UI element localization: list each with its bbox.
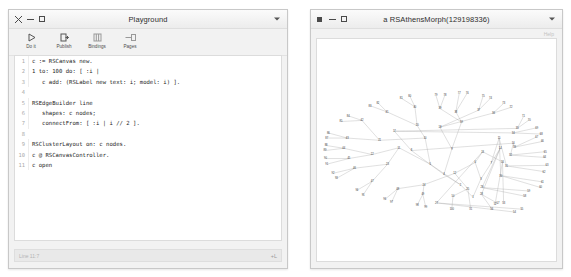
tree-node-label[interactable]: 88 — [325, 143, 328, 147]
tree-node-label[interactable]: 96 — [383, 197, 386, 201]
tree-node-label[interactable]: 26 — [501, 160, 504, 164]
tree-node-label[interactable]: 60 — [539, 185, 542, 189]
tree-node-label[interactable]: 39 — [438, 106, 441, 110]
minimize-icon[interactable] — [27, 16, 34, 23]
tree-node-label[interactable]: 30 — [499, 174, 502, 178]
tree-node-label[interactable]: 15 — [498, 136, 501, 140]
tree-node-label[interactable]: 55 — [520, 207, 523, 211]
tree-node-label[interactable]: 41 — [386, 110, 389, 114]
code-line[interactable]: 1c := RSCanvas new. — [15, 56, 281, 66]
tree-node-label[interactable]: 2 — [460, 183, 462, 187]
tree-node-label[interactable]: 57 — [497, 201, 500, 205]
tree-node-label[interactable]: 95 — [362, 193, 365, 197]
tree-node-label[interactable]: 62 — [543, 170, 546, 174]
tree-node-label[interactable]: 63 — [545, 163, 548, 167]
tree-node-label[interactable]: 38 — [454, 110, 457, 114]
tree-node-label[interactable]: 18 — [438, 125, 441, 129]
tree-node-label[interactable]: 67 — [535, 135, 538, 139]
tree-node-label[interactable]: 4 — [443, 172, 445, 176]
tree-node-label[interactable]: 94 — [355, 188, 358, 192]
tree-node-label[interactable]: 68 — [540, 132, 543, 136]
code-line[interactable]: 6 shapes: c nodes; — [15, 108, 281, 118]
tree-node-label[interactable]: 11 — [398, 146, 401, 150]
maximize-icon[interactable] — [39, 16, 46, 23]
do-it-button[interactable]: Do it — [15, 31, 47, 49]
tree-node-label[interactable]: 64 — [543, 155, 546, 159]
tree-node-label[interactable]: 16 — [512, 141, 515, 145]
code-line[interactable]: 9RSClusterLayout on: c nodes. — [15, 139, 281, 149]
tree-node-label[interactable]: 5 — [430, 162, 432, 166]
close-icon[interactable] — [317, 16, 324, 23]
tree-node-label[interactable]: 19 — [460, 120, 463, 124]
playground-titlebar[interactable]: Playground — [9, 10, 287, 29]
code-line[interactable]: 21 to: 100 do: [ :i | — [15, 66, 281, 76]
code-line[interactable]: 5RSEdgeBuilder line — [15, 98, 281, 108]
tree-node-label[interactable]: 53 — [502, 201, 505, 205]
tree-node-label[interactable]: 29 — [481, 185, 484, 189]
tree-node-label[interactable]: 10 — [424, 136, 427, 140]
tree-node-label[interactable]: 65 — [544, 150, 547, 154]
chevron-down-icon[interactable] — [274, 18, 280, 21]
tree-node-label[interactable]: 35 — [516, 126, 519, 130]
publish-button[interactable]: Publish — [48, 31, 80, 49]
tree-node-label[interactable]: 28 — [480, 192, 483, 196]
tree-node-label[interactable]: 54 — [513, 210, 516, 214]
tree-node-label[interactable]: 72 — [510, 105, 513, 109]
tree-node-label[interactable]: 49 — [421, 192, 424, 196]
tree-node-label[interactable]: 1 — [472, 195, 474, 199]
tree-node-label[interactable]: 79 — [434, 93, 437, 97]
tree-node-label[interactable]: 24 — [423, 183, 426, 187]
tree-node-label[interactable]: 42 — [361, 118, 364, 122]
tree-node-label[interactable]: 70 — [528, 118, 531, 122]
tree-node-label[interactable]: 69 — [535, 126, 538, 130]
code-line[interactable]: 10c @ RSCanvasController. — [15, 150, 281, 160]
tree-node-label[interactable]: 77 — [458, 91, 461, 95]
close-icon[interactable] — [15, 16, 22, 23]
tree-node-label[interactable]: 80 — [408, 94, 411, 98]
morph-titlebar[interactable]: a RSAthensMorph(129198336) — [311, 10, 562, 29]
chevron-down-icon[interactable] — [549, 18, 555, 21]
tree-node-label[interactable]: 100 — [450, 207, 455, 211]
tree-node-label[interactable]: 71 — [522, 114, 525, 118]
tree-node-label[interactable]: 75 — [482, 94, 485, 98]
minimize-icon[interactable] — [329, 16, 336, 23]
tree-node-label[interactable]: 66 — [541, 139, 544, 143]
tree-node-label[interactable]: 58 — [523, 194, 526, 198]
bindings-button[interactable]: Bindings — [81, 31, 113, 49]
help-label[interactable]: Help — [544, 31, 554, 37]
tree-node-label[interactable]: 83 — [368, 104, 371, 108]
code-editor[interactable]: 1c := RSCanvas new.21 to: 100 do: [ :i |… — [14, 55, 282, 241]
tree-node-label[interactable]: 44 — [342, 146, 345, 150]
tree-node-label[interactable]: 99 — [424, 205, 427, 209]
tree-node-label[interactable]: 20 — [416, 123, 419, 127]
tree-visualization-canvas[interactable]: 1234567891011121314151617181920212223242… — [316, 38, 557, 262]
code-line[interactable]: 3 c add: (RSLabel new text: i; model: i)… — [15, 77, 281, 87]
tree-node-label[interactable]: 74 — [489, 96, 492, 100]
code-line[interactable]: 11c open — [15, 160, 281, 170]
tree-node-label[interactable]: 92 — [331, 171, 334, 175]
tree-node-label[interactable]: 86 — [327, 131, 330, 135]
tree-node-label[interactable]: 23 — [386, 162, 389, 166]
code-line[interactable]: 7 connectFrom: [ :i | i // 2 ]. — [15, 118, 281, 128]
tree-node-label[interactable]: 50 — [452, 194, 455, 198]
tree-node-label[interactable]: 59 — [527, 189, 530, 193]
tree-node-label[interactable]: 84 — [347, 114, 350, 118]
tree-node-label[interactable]: 9 — [451, 147, 453, 151]
tree-node-label[interactable]: 98 — [416, 203, 419, 207]
tree-node-label[interactable]: 93 — [335, 176, 338, 180]
tree-node-label[interactable]: 61 — [541, 180, 544, 184]
tree-node-label[interactable]: 91 — [325, 162, 328, 166]
tree-node-label[interactable]: 73 — [502, 101, 505, 105]
tree-node-label[interactable]: 25 — [466, 187, 469, 191]
tree-node-label[interactable]: 43 — [346, 136, 349, 140]
pages-button[interactable]: Pages — [114, 31, 146, 49]
tree-node-label[interactable]: 76 — [466, 91, 469, 95]
tree-node-label[interactable]: 13 — [481, 150, 484, 154]
tree-node-label[interactable]: 81 — [400, 96, 403, 100]
code-line[interactable]: 4 — [15, 87, 281, 97]
maximize-icon[interactable] — [341, 16, 348, 23]
tree-node-label[interactable]: 33 — [513, 145, 516, 149]
tree-node-label[interactable]: 78 — [444, 93, 447, 97]
tree-node-label[interactable]: 22 — [371, 152, 374, 156]
tree-node-label[interactable]: 45 — [347, 156, 350, 160]
